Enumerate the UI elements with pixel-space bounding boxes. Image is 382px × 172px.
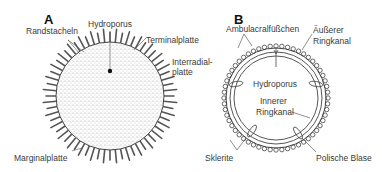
label-terminalplatte: Terminalplatte: [146, 35, 199, 45]
label-interradialplatte-1: Interradial-: [172, 57, 213, 67]
label-aeusserer-ringkanal-1: Äußerer: [313, 25, 344, 35]
sea-star-disc-a: [43, 29, 176, 162]
label-hydroporus-a: Hydroporus: [88, 19, 132, 29]
label-aeusserer-ringkanal-2: Ringkanal: [313, 36, 351, 46]
label-marginalplatte: Marginalplatte: [14, 153, 67, 163]
label-innerer-ringkanal-1: Innerer: [260, 96, 287, 106]
label-sklerite: Sklerite: [205, 153, 233, 163]
label-randstacheln: Randstacheln: [26, 26, 78, 36]
label-innerer-ringkanal-2: Ringkanal: [256, 107, 294, 117]
label-hydroporus-b: Hydroporus: [253, 79, 297, 89]
sea-star-disc-b: [222, 34, 330, 152]
label-ambulacralfuesschen: Ambulacralfüßchen: [226, 24, 299, 34]
hydroporus-dot: [108, 69, 112, 73]
label-polische-blase: Polische Blase: [316, 153, 372, 163]
label-interradialplatte-2: platte: [172, 67, 193, 77]
sklerite-oval: [246, 124, 258, 138]
